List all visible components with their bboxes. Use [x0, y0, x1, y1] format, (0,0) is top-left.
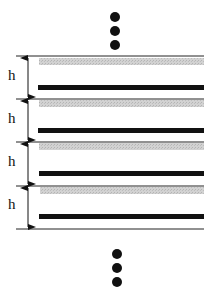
bottom-ellipsis-icon — [112, 249, 122, 287]
gray-layer — [40, 187, 204, 194]
layered-structure-diagram — [0, 0, 216, 294]
period-3 — [16, 142, 204, 184]
gray-layer — [39, 100, 204, 107]
black-layer — [38, 128, 204, 133]
period-4 — [16, 186, 204, 229]
black-layer — [38, 85, 204, 90]
gray-layer — [39, 58, 204, 65]
period-2 — [16, 99, 204, 140]
period-label-1: h — [8, 67, 16, 84]
top-ellipsis-icon — [110, 12, 120, 50]
period-label-4: h — [8, 196, 16, 213]
gray-layer — [39, 143, 204, 150]
black-layer — [39, 214, 204, 219]
period-label-2: h — [8, 110, 16, 127]
period-1 — [16, 56, 204, 97]
period-label-3: h — [8, 153, 16, 170]
black-layer — [39, 171, 204, 176]
